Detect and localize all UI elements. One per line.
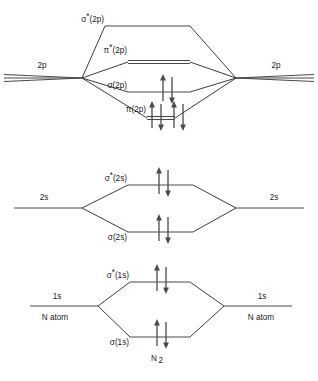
correlation-lines-1s [98, 282, 224, 337]
level-label-sigma-star-2s: σ*(2s) [105, 171, 128, 183]
level-label-sigma-star-2p: σ*(2p) [81, 12, 104, 24]
svg-text:π*(2p): π*(2p) [104, 43, 128, 55]
svg-text:σ*(2p): σ*(2p) [81, 12, 104, 24]
block-1s: 1s N atom 1s N atom σ*(1s) [30, 264, 292, 365]
paren-glyph: (2p) [89, 15, 104, 24]
svg-text:σ(1s): σ(1s) [110, 338, 129, 347]
electron-pair-sigma-star-2s [156, 167, 171, 197]
level-label-sigma-2s: σ(2s) [108, 233, 127, 242]
atomic-label-2s-right: 2s [270, 193, 279, 202]
molecular-orbital-diagram: 2p 2p σ*(2p) [0, 0, 318, 381]
atomic-label-1s-right: 1s [258, 292, 267, 301]
paren-glyph: (1s) [115, 338, 129, 347]
svg-text:σ(2p): σ(2p) [107, 81, 127, 90]
level-label-pi-star-2p: π*(2p) [104, 43, 128, 55]
correlation-lines-2p-right [175, 26, 236, 118]
paren-glyph: (1s) [115, 271, 129, 280]
svg-text:σ*(1s): σ*(1s) [107, 268, 130, 280]
atomic-label-2p-left: 2p [37, 61, 47, 70]
molecule-symbol: N [151, 354, 157, 363]
atom-label-right: N atom [248, 313, 275, 322]
level-label-pi-2p: π(2p) [126, 105, 146, 114]
paren-glyph: (2s) [113, 233, 127, 242]
svg-text:σ(2s): σ(2s) [108, 233, 127, 242]
block-2p: 2p 2p σ*(2p) [4, 12, 314, 131]
paren-glyph: (2s) [113, 174, 127, 183]
molecule-label: N2 [151, 354, 163, 365]
level-label-sigma-1s: σ(1s) [110, 338, 129, 347]
atom-label-left: N atom [42, 313, 69, 322]
electron-pair-sigma-2s [156, 214, 171, 244]
molecule-subscript: 2 [158, 356, 163, 365]
paren-glyph: (2p) [112, 81, 127, 90]
paren-glyph: (2p) [131, 105, 146, 114]
block-2s: 2s 2s σ*(2s) σ(2s) [14, 167, 304, 244]
atomic-label-2p-right: 2p [271, 61, 281, 70]
atomic-label-1s-left: 1s [53, 292, 62, 301]
electron-pair-sigma-star-1s [154, 264, 169, 294]
atomic-orbital-2p-left [4, 75, 82, 82]
level-pi-star-2p [128, 61, 190, 64]
electron-pair-sigma-1s [154, 319, 169, 349]
paren-glyph: (2p) [112, 46, 127, 55]
svg-text:σ*(2s): σ*(2s) [105, 171, 128, 183]
svg-text:π(2p): π(2p) [126, 105, 146, 114]
atomic-label-2s-left: 2s [40, 193, 49, 202]
level-label-sigma-2p: σ(2p) [107, 81, 127, 90]
level-label-sigma-star-1s: σ*(1s) [107, 268, 130, 280]
atomic-orbital-2p-right [236, 75, 314, 82]
electron-pair-sigma-2p [160, 74, 175, 104]
